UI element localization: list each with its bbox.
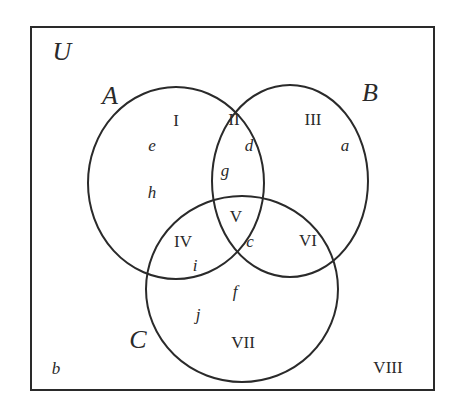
element-f: f [233,283,238,300]
element-e: e [148,137,156,154]
region-iii-label: III [305,111,322,128]
element-g: g [221,162,230,179]
element-b: b [52,360,61,377]
element-a: a [341,137,350,154]
element-i: i [193,257,198,274]
region-v-label: V [230,208,242,225]
universe-label: U [53,39,72,65]
set-c-label: C [129,327,146,353]
region-ii-label: II [228,111,239,128]
region-vii-label: VII [231,334,255,351]
element-j: j [196,306,201,323]
region-iv-label: IV [174,233,192,250]
region-vi-label: VI [299,232,317,249]
element-c: c [246,233,254,250]
set-a-label: A [102,83,118,109]
set-b-label: B [362,80,378,106]
region-i-label: I [173,112,179,129]
element-d: d [245,137,254,154]
region-viii-label: VIII [373,359,402,376]
element-h: h [148,184,157,201]
